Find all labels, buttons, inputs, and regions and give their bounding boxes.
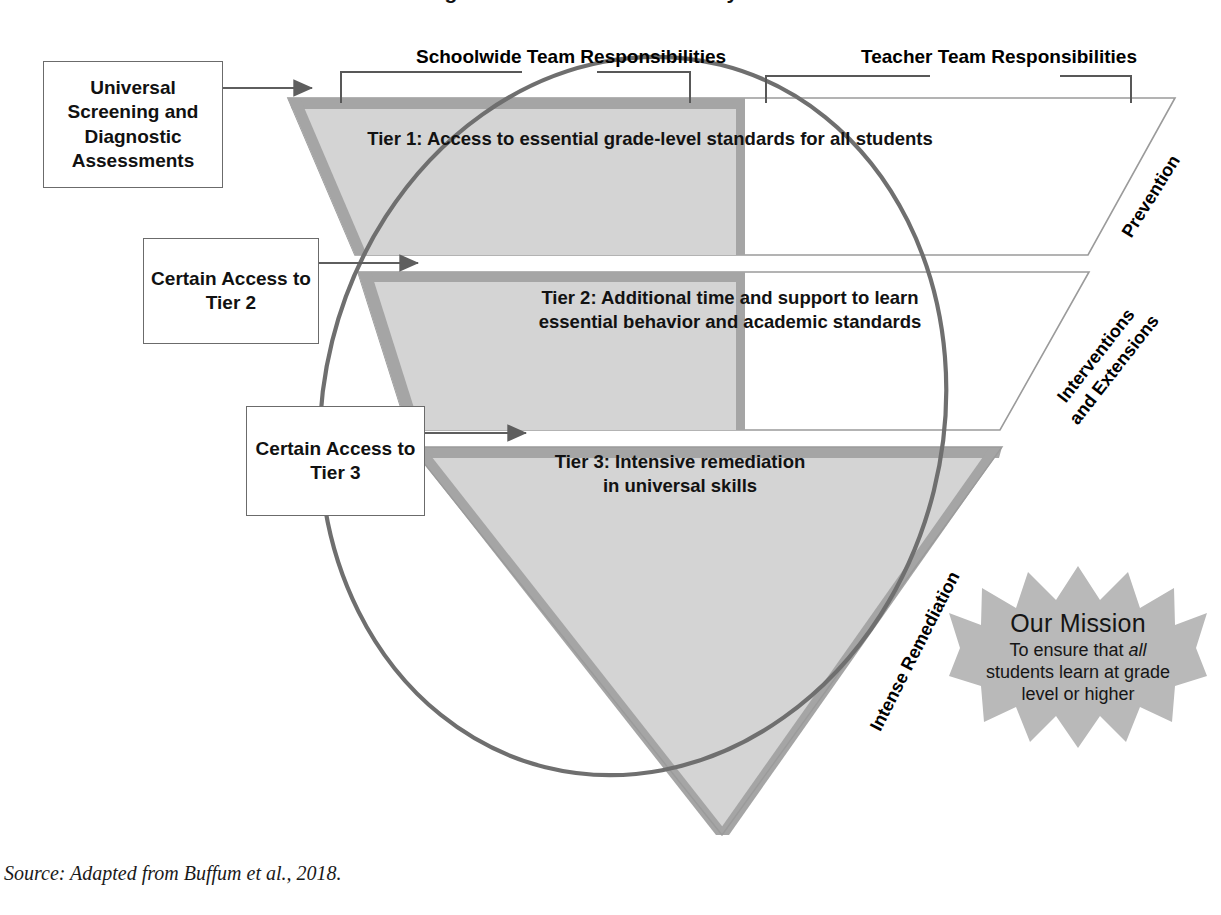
mission-line-1: To ensure that xyxy=(1009,640,1128,660)
callout-certain-access-tier-2[interactable]: Certain Access to Tier 2 xyxy=(143,238,319,344)
tier-1-top-band xyxy=(288,98,745,109)
tier-2-label: Tier 2: Additional time and support to l… xyxy=(330,286,1130,333)
tier-2-top-band xyxy=(358,272,745,282)
tier-1-label: Tier 1: Access to essential grade-level … xyxy=(200,127,1100,151)
mission-title: Our Mission xyxy=(973,610,1183,638)
mission-line-2: students learn at grade xyxy=(986,662,1170,682)
tier-3-label: Tier 3: Intensive remediation in univers… xyxy=(360,450,1000,497)
source-note: Source: Adapted from Buffum et al., 2018… xyxy=(4,862,342,885)
figure-canvas: Figure: RTI at Work Inverted Pyramid xyxy=(0,0,1221,915)
mission-badge: Our Mission To ensure that all students … xyxy=(949,566,1207,794)
tier-1-divider xyxy=(736,98,745,255)
mission-text-block: Our Mission To ensure that all students … xyxy=(973,610,1183,705)
bracket-label-teacher: Teacher Team Responsibilities xyxy=(861,46,1137,69)
mission-emphasis: all xyxy=(1129,640,1147,660)
callout-universal-screening[interactable]: Universal Screening and Diagnostic Asses… xyxy=(43,61,223,188)
mission-line-3: level or higher xyxy=(1021,684,1134,704)
mission-body: To ensure that all students learn at gra… xyxy=(973,639,1183,706)
bracket-label-schoolwide: Schoolwide Team Responsibilities xyxy=(416,46,726,69)
